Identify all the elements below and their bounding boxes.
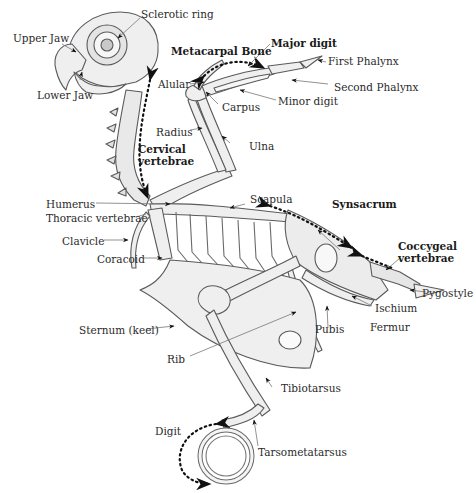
label-clavicle: Clavicle (62, 235, 104, 247)
label-thoracic-vertebrae: Thoracic vertebrae (46, 212, 148, 224)
label-carpus: Carpus (222, 101, 260, 113)
label-ulna: Ulna (249, 140, 274, 152)
label-alular: Alular (158, 78, 190, 90)
first-phalynx (268, 62, 304, 74)
label-coccygeal-vertebrae-line1: Coccygeal (398, 240, 457, 252)
label-synsacrum: Synsacrum (332, 198, 397, 210)
label-coccygeal-vertebrae-line2: vertebrae (398, 252, 454, 264)
label-tibiotarsus: Tibiotarsus (281, 382, 341, 394)
label-lower-jaw: Lower Jaw (37, 89, 93, 101)
label-ischium: Ischium (375, 302, 417, 314)
label-scapula: Scapula (250, 193, 292, 205)
bird-skeleton-diagram: Sclerotic ring Upper Jaw Lower Jaw Metac… (0, 0, 476, 493)
label-tarsometatarsus: Tarsometatarsus (258, 446, 347, 458)
label-major-digit: Major digit (271, 37, 337, 49)
label-sternum-keel: Sternum (keel) (79, 324, 159, 336)
label-fermur: Fermur (370, 321, 410, 333)
label-pygostyle: Pygostyle (422, 287, 473, 299)
label-first-phalynx: First Phalynx (328, 55, 399, 67)
label-digit: Digit (155, 425, 181, 437)
label-pubis: Pubis (315, 323, 344, 335)
label-upper-jaw: Upper Jaw (13, 32, 69, 44)
label-minor-digit: Minor digit (278, 95, 338, 107)
label-sclerotic-ring: Sclerotic ring (141, 8, 214, 20)
label-cervical-vertebrae-line2: vertebrae (138, 155, 194, 167)
label-second-phalynx: Second Phalynx (334, 81, 419, 93)
label-radius: Radius (156, 126, 193, 138)
label-metacarpal-bone: Metacarpal Bone (171, 45, 272, 57)
label-cervical-vertebrae-line1: Cervical (138, 143, 186, 155)
label-humerus: Humerus (46, 198, 95, 210)
label-rib: Rib (167, 353, 185, 365)
label-coracoid: Coracoid (97, 253, 145, 265)
coracoid-bone (148, 208, 172, 260)
tarsometatarsus-bone (222, 404, 264, 428)
